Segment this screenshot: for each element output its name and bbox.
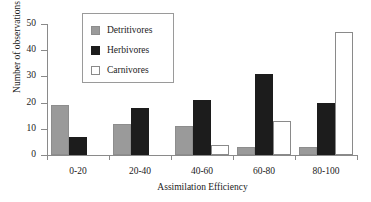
legend-label-carnivores: Carnivores	[107, 65, 149, 75]
bar-detritivores-20-40	[113, 124, 131, 155]
bar-herbivores-40-60	[193, 100, 211, 155]
legend-label-herbivores: Herbivores	[107, 45, 149, 55]
x-tick-40-60	[171, 155, 172, 160]
legend-item-herbivores[interactable]: Herbivores	[91, 40, 173, 60]
y-tick-label-20: 20	[0, 98, 36, 108]
bar-detritivores-60-80	[237, 147, 255, 155]
legend-swatch-herbivores	[91, 46, 100, 55]
legend-swatch-detritivores	[91, 26, 100, 35]
x-tick-0-20	[47, 155, 48, 160]
bar-herbivores-20-40	[131, 108, 149, 155]
bar-detritivores-40-60	[175, 126, 193, 155]
legend-label-detritivores: Detritivores	[107, 25, 152, 35]
legend-item-detritivores[interactable]: Detritivores	[91, 20, 173, 40]
y-tick-label-40: 40	[0, 45, 36, 55]
bar-carnivores-80-100	[335, 32, 353, 155]
x-tick-label-80-100: 80-100	[291, 166, 361, 176]
x-axis-line	[47, 155, 358, 156]
legend: DetritivoresHerbivoresCarnivores	[82, 13, 174, 83]
x-tick-label-20-40: 20-40	[105, 166, 175, 176]
bar-chart: Number of observations 01020304050 0-202…	[0, 0, 371, 202]
y-tick-label-50: 50	[0, 19, 36, 29]
x-tick-label-60-80: 60-80	[229, 166, 299, 176]
bar-detritivores-80-100	[299, 147, 317, 155]
x-tick-80-100	[295, 155, 296, 160]
x-axis-label: Assimilation Efficiency	[47, 182, 358, 192]
x-tick-60-80	[233, 155, 234, 160]
legend-item-carnivores[interactable]: Carnivores	[91, 60, 173, 80]
y-tick-label-10: 10	[0, 124, 36, 134]
x-tick-20-40	[109, 155, 110, 160]
bar-herbivores-80-100	[317, 103, 335, 155]
bar-herbivores-0-20	[69, 137, 87, 155]
bar-carnivores-40-60	[211, 145, 229, 155]
x-tick-end	[357, 155, 358, 160]
y-tick-label-30: 30	[0, 71, 36, 81]
x-tick-label-40-60: 40-60	[167, 166, 237, 176]
legend-swatch-carnivores	[91, 66, 100, 75]
bar-carnivores-60-80	[273, 121, 291, 155]
bar-herbivores-60-80	[255, 74, 273, 155]
y-axis-label: Number of observations	[12, 0, 22, 112]
bar-detritivores-0-20	[51, 105, 69, 155]
x-tick-label-0-20: 0-20	[43, 166, 113, 176]
y-tick-label-0: 0	[0, 150, 36, 160]
